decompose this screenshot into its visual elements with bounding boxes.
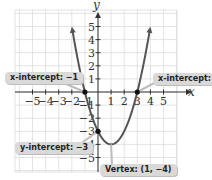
y-tick-label: 2 <box>88 60 95 73</box>
vertex-callout: Vertex: (1, −4) <box>100 164 177 176</box>
x-intercept-right-point <box>135 89 140 94</box>
x-tick-label: 5 <box>160 95 167 108</box>
curve-arrow-icon <box>146 27 152 33</box>
y-intercept-callout: y-intercept: −3 <box>15 142 93 154</box>
y-tick-label: 3 <box>88 47 95 60</box>
x-intercept-left-point <box>82 89 87 94</box>
curve-arrow-icon <box>70 27 76 33</box>
x-intercept-right-callout: x-intercept: 3 <box>153 73 212 85</box>
y-axis-label: y <box>92 0 100 12</box>
y-tick-label: 1 <box>88 73 95 86</box>
x-tick-label: 2 <box>121 95 128 108</box>
x-intercept-left-callout: x-intercept: −1 <box>5 72 83 84</box>
y-tick-label: 4 <box>88 34 95 47</box>
x-tick-label: 1 <box>108 95 115 108</box>
x-tick-label: 4 <box>147 95 154 108</box>
y-tick-label: 5 <box>88 21 95 34</box>
y-intercept-point <box>95 129 100 134</box>
x-axis-label: x <box>188 85 195 99</box>
